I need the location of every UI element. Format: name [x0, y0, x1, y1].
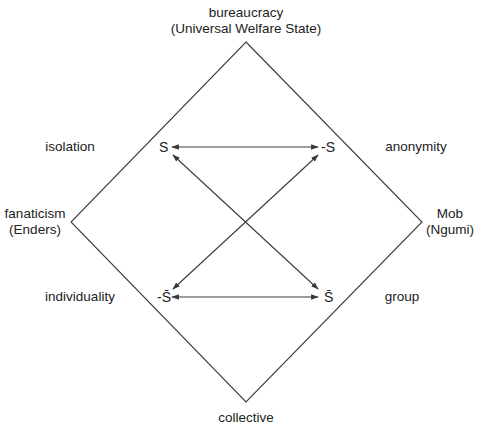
- node-s-bar: S̄: [324, 289, 333, 305]
- vertex-right-line1: Mob: [420, 206, 480, 222]
- node-neg-s-bar: -S̄: [157, 289, 171, 305]
- edge-label-anonymity: anonymity: [376, 139, 456, 155]
- vertex-left-line2: (Enders): [0, 222, 70, 238]
- edge-label-group: group: [372, 289, 432, 305]
- diagram-canvas: [0, 0, 482, 431]
- vertex-label-right: Mob (Ngumi): [420, 206, 480, 238]
- vertex-left-line1: fanaticism: [0, 206, 70, 222]
- vertex-label-bottom: collective: [196, 410, 296, 426]
- vertex-right-line2: (Ngumi): [420, 222, 480, 238]
- node-neg-s: -S: [321, 139, 335, 155]
- edge-label-isolation: isolation: [30, 139, 110, 155]
- node-s: S: [159, 139, 168, 155]
- vertex-top-line1: bureaucracy: [146, 5, 346, 21]
- vertex-bottom-line1: collective: [196, 410, 296, 426]
- edge-label-individuality: individuality: [40, 289, 120, 305]
- diamond-outline: [71, 42, 422, 402]
- vertex-top-line2: (Universal Welfare State): [146, 21, 346, 37]
- vertex-label-top: bureaucracy (Universal Welfare State): [146, 5, 346, 37]
- vertex-label-left: fanaticism (Enders): [0, 206, 70, 238]
